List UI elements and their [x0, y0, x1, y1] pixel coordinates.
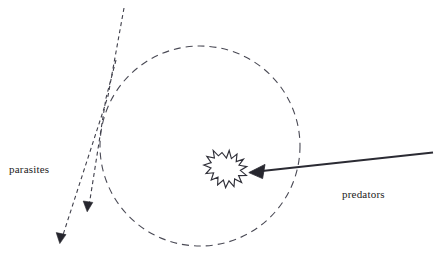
parasite-arrow-short-head [83, 201, 93, 212]
label-parasites: parasites [9, 163, 49, 176]
parasite-arrow-short-line [89, 60, 116, 206]
parasite-arrow-long-head [56, 233, 66, 244]
predator-arrow-line [262, 153, 433, 172]
starburst-icon [204, 150, 247, 187]
label-predators: predators [342, 188, 385, 201]
diagram-svg [0, 0, 435, 258]
predator-arrow-head [249, 164, 265, 178]
dashed-circle [100, 46, 300, 246]
parasite-arrow-long-line [62, 8, 124, 238]
diagram-canvas: parasites predators [0, 0, 435, 258]
